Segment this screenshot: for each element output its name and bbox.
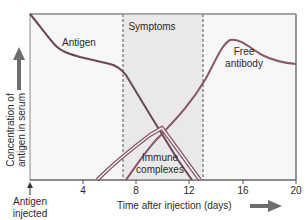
free-antibody-label-line1: Free bbox=[234, 46, 255, 57]
free-antibody-label-line2: antibody bbox=[225, 58, 263, 69]
injected-label-line2: injected bbox=[13, 208, 47, 219]
antigen-label: Antigen bbox=[62, 37, 96, 48]
x-axis-label: Time after injection (days) bbox=[117, 200, 232, 211]
x-axis-arrow-icon bbox=[250, 200, 282, 212]
immune-complexes-label-line1: Immune bbox=[142, 152, 179, 163]
chart: 4 8 12 16 20 Symptoms Antigen Free antib… bbox=[0, 0, 306, 220]
tick-label-4: 4 bbox=[80, 185, 86, 196]
tick-label-20: 20 bbox=[290, 185, 302, 196]
tick-label-12: 12 bbox=[183, 185, 195, 196]
y-axis-label-line2: antigen in serum bbox=[16, 93, 27, 167]
injected-label-line1: Antigen bbox=[13, 196, 47, 207]
y-axis-label-line1: Concentration of bbox=[5, 93, 16, 167]
y-axis-arrow-icon bbox=[13, 47, 25, 90]
injection-arrow-icon bbox=[27, 182, 33, 195]
tick-label-8: 8 bbox=[133, 185, 139, 196]
tick-label-16: 16 bbox=[237, 185, 249, 196]
symptoms-label: Symptoms bbox=[128, 21, 175, 32]
x-ticks bbox=[83, 180, 296, 184]
immune-complexes-label-line2: complexes bbox=[136, 164, 184, 175]
